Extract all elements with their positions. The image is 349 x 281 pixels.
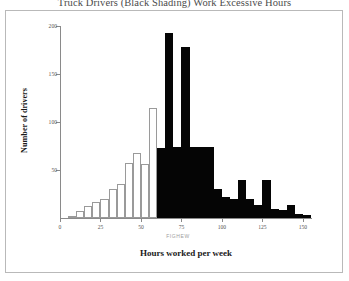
histogram-bar <box>230 199 238 218</box>
histogram-bar <box>214 189 222 218</box>
histogram-bar <box>68 216 76 218</box>
histogram-bar <box>279 210 287 218</box>
histogram-bar <box>181 47 189 218</box>
histogram-bar <box>125 163 133 218</box>
histogram-bar <box>190 147 198 218</box>
histogram-bar <box>303 215 311 218</box>
histogram-bar <box>100 199 108 218</box>
y-axis-title: Number of drivers <box>20 61 29 181</box>
histogram-bar <box>246 199 254 218</box>
histogram-bar <box>287 205 295 218</box>
histogram-bar <box>92 202 100 218</box>
histogram-bar <box>206 147 214 218</box>
histogram-bar <box>141 164 149 218</box>
histogram-bar <box>165 33 173 218</box>
histogram-bar <box>295 214 303 218</box>
histogram-bar <box>222 197 230 218</box>
histogram-bar <box>157 148 165 218</box>
plot-area: 20015010050 0255075100125150 FIGHEW Hour… <box>0 0 349 281</box>
axis-artifact-text: FIGHEW <box>148 233 208 239</box>
histogram-bar <box>109 189 117 218</box>
histogram-bar <box>76 211 84 218</box>
histogram-bar <box>262 180 270 218</box>
histogram-bar <box>271 209 279 218</box>
histogram-bar <box>117 184 125 218</box>
x-axis-title: Hours worked per week <box>60 248 312 258</box>
histogram-bar <box>173 147 181 218</box>
histogram-bar <box>149 108 157 218</box>
histogram-bar <box>198 147 206 218</box>
histogram-bar <box>254 205 262 218</box>
histogram-bar <box>238 180 246 218</box>
histogram-bar <box>84 206 92 218</box>
histogram-bar <box>133 153 141 218</box>
